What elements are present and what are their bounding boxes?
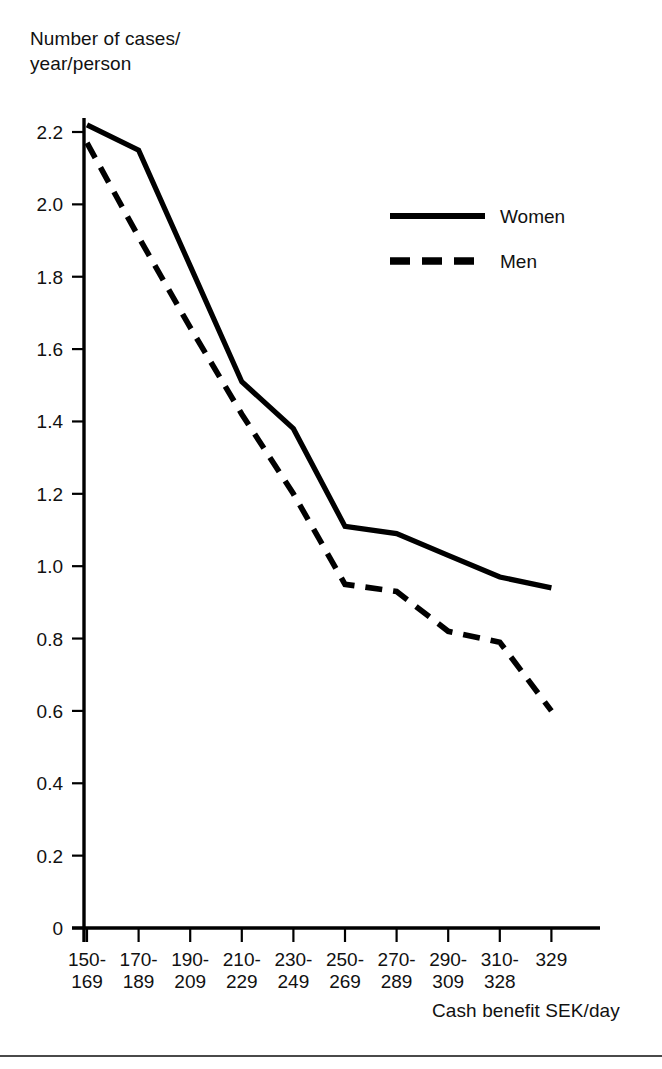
x-tick-label: 270-289 xyxy=(378,949,416,992)
legend-label-women: Women xyxy=(500,206,565,227)
y-tick-label: 2.0 xyxy=(37,194,63,215)
x-tick-label: 170-189 xyxy=(120,949,158,992)
x-tick-label: 150-169 xyxy=(68,949,106,992)
legend-label-men: Men xyxy=(500,251,537,272)
x-tick-label: 310-328 xyxy=(481,949,519,992)
x-tick-label: 250-269 xyxy=(326,949,364,992)
x-tick-label: 230-249 xyxy=(274,949,312,992)
figure-bottom-rule xyxy=(0,1055,662,1057)
y-tick-label: 0 xyxy=(52,918,63,939)
y-tick-label: 1.2 xyxy=(37,484,63,505)
y-tick-label: 1.4 xyxy=(37,411,64,432)
series-line-men xyxy=(87,143,551,711)
x-tick-label: 290-309 xyxy=(429,949,467,992)
legend: Women Men xyxy=(390,206,565,272)
y-tick-label: 1.0 xyxy=(37,556,63,577)
y-tick-label: 1.8 xyxy=(37,267,63,288)
x-axis-title: Cash benefit SEK/day xyxy=(432,1000,620,1022)
y-tick-group: 00.20.40.60.81.01.21.41.61.82.02.2 xyxy=(37,122,84,939)
x-tick-group: 150-169170-189190-209210-229230-249250-2… xyxy=(68,928,567,992)
y-tick-label: 0.6 xyxy=(37,701,63,722)
y-tick-label: 0.8 xyxy=(37,629,63,650)
x-tick-label: 190-209 xyxy=(171,949,209,992)
line-chart-canvas: 00.20.40.60.81.01.21.41.61.82.02.2 150-1… xyxy=(0,0,662,1069)
series-line-women xyxy=(87,125,551,588)
y-tick-label: 0.2 xyxy=(37,846,63,867)
x-tick-label: 210-229 xyxy=(223,949,261,992)
y-tick-label: 0.4 xyxy=(37,773,64,794)
y-tick-label: 2.2 xyxy=(37,122,63,143)
figure-panel: Number of cases/ year/person 00.20.40.60… xyxy=(0,0,662,1069)
y-tick-label: 1.6 xyxy=(37,339,63,360)
x-tick-label: 329 xyxy=(536,949,568,970)
